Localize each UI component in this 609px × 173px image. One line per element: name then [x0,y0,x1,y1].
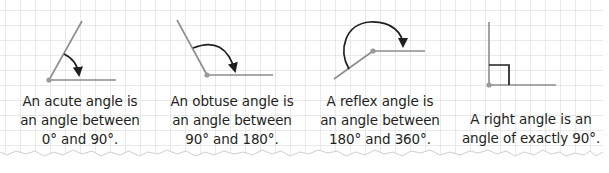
right-angle-square-marker [489,65,509,85]
reflex-ray-inclined [334,51,373,79]
caption-line: An obtuse angle is [170,92,294,111]
acute-arc-arrow [64,54,79,75]
obtuse-ray-inclined [177,20,207,75]
caption-line: 180° and 360°. [318,130,442,149]
acute-vertex-dot [46,77,51,82]
acute-ray-inclined [49,21,82,80]
caption-line: A reflex angle is [318,92,442,111]
right-angle-caption: A right angle is an angle of exactly 90°… [458,110,604,148]
caption-line: A right angle is an [458,110,604,129]
reflex-vertex-dot [370,48,375,53]
reflex-angle-caption: A reflex angle is an angle between 180° … [318,92,442,149]
caption-line: an angle between [170,111,294,130]
obtuse-arc-arrow [193,45,235,71]
reflex-arc-arrow [344,22,403,69]
right-angle-figure [486,22,556,88]
acute-angle-caption: An acute angle is an angle between 0° an… [18,92,142,149]
caption-line: An acute angle is [18,92,142,111]
caption-line: 0° and 90°. [18,130,142,149]
obtuse-vertex-dot [204,72,209,77]
caption-line: an angle between [318,111,442,130]
right-vertex-dot [486,82,491,87]
obtuse-angle-caption: An obtuse angle is an angle between 90° … [170,92,294,149]
acute-angle-figure [46,21,116,83]
caption-line: angle of exactly 90°. [458,129,604,148]
caption-line: an angle between [18,111,142,130]
obtuse-angle-figure [177,20,273,78]
reflex-angle-figure [334,22,425,79]
caption-line: 90° and 180°. [170,130,294,149]
